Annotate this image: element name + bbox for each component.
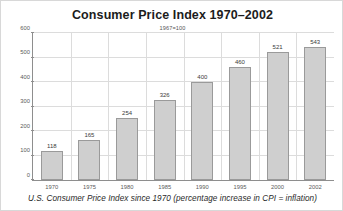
- chart-title: Consumer Price Index 1970–2002: [1, 8, 343, 22]
- bar-value-label: 400: [197, 74, 207, 80]
- bar-slot: 2541980: [108, 33, 146, 180]
- bar-slot: 4001990: [184, 33, 222, 180]
- y-tick-label: 500: [20, 49, 30, 55]
- bar-slot: 1651975: [71, 33, 109, 180]
- bar-series: 1181970165197525419803261985400199046019…: [33, 33, 334, 180]
- bar-slot: 5212000: [259, 33, 297, 180]
- y-tick-label: 300: [20, 98, 30, 104]
- x-tick-label: 1990: [196, 184, 209, 190]
- bar-value-label: 118: [47, 143, 57, 149]
- plot-wrapper: 0100200300400500600 11819701651975254198…: [32, 33, 334, 181]
- y-tick-label: 200: [20, 123, 30, 129]
- y-tick-label: 600: [20, 25, 30, 31]
- x-tick-label: 1980: [121, 184, 134, 190]
- bar[interactable]: [78, 140, 100, 180]
- plot-area: 0100200300400500600 11819701651975254198…: [32, 33, 334, 181]
- bar-slot: 5432002: [296, 33, 334, 180]
- x-tick-label: 2002: [309, 184, 322, 190]
- bar[interactable]: [267, 52, 289, 180]
- x-tick-label: 2000: [271, 184, 284, 190]
- chart-figure: Consumer Price Index 1970–2002 1967=100 …: [0, 0, 343, 211]
- bar-slot: 1181970: [33, 33, 71, 180]
- x-tick-label: 1970: [45, 184, 58, 190]
- y-tick-label: 0: [27, 172, 30, 178]
- chart-caption: U.S. Consumer Price Index since 1970 (pe…: [1, 194, 343, 203]
- bar-value-label: 460: [235, 59, 245, 65]
- bar[interactable]: [154, 100, 176, 180]
- bar[interactable]: [41, 151, 63, 180]
- bar-slot: 4601995: [221, 33, 259, 180]
- bar-value-label: 165: [84, 132, 94, 138]
- chart-subtitle: 1967=100: [1, 25, 343, 31]
- bar-value-label: 543: [310, 39, 320, 45]
- bar-slot: 3261985: [146, 33, 184, 180]
- bar[interactable]: [229, 67, 251, 180]
- x-tick-label: 1975: [83, 184, 96, 190]
- bar-value-label: 326: [160, 92, 170, 98]
- x-tick-label: 1985: [158, 184, 171, 190]
- bar[interactable]: [304, 47, 326, 180]
- y-tick-label: 400: [20, 74, 30, 80]
- y-tick-label: 100: [20, 147, 30, 153]
- x-tick-label: 1995: [233, 184, 246, 190]
- bar-value-label: 254: [122, 110, 132, 116]
- bar[interactable]: [116, 118, 138, 180]
- bar[interactable]: [191, 82, 213, 180]
- bar-value-label: 521: [273, 44, 283, 50]
